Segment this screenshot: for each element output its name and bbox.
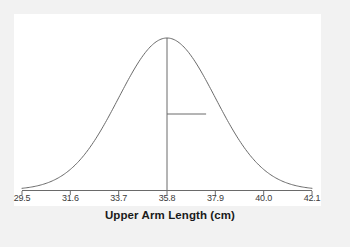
- x-axis-tick-label: 33.7: [99, 193, 139, 203]
- x-axis-tick-label: 35.8: [147, 193, 187, 203]
- x-axis-tick-label: 31.6: [50, 193, 90, 203]
- x-axis-title: Upper Arm Length (cm): [0, 209, 340, 221]
- normal-distribution-chart: 29.531.633.735.837.940.042.1 Upper Arm L…: [0, 0, 350, 247]
- x-axis-tick-label: 42.1: [292, 193, 332, 203]
- x-axis-tick-label: 40.0: [244, 193, 284, 203]
- x-axis-tick-label: 29.5: [2, 193, 42, 203]
- x-axis-tick-label: 37.9: [195, 193, 235, 203]
